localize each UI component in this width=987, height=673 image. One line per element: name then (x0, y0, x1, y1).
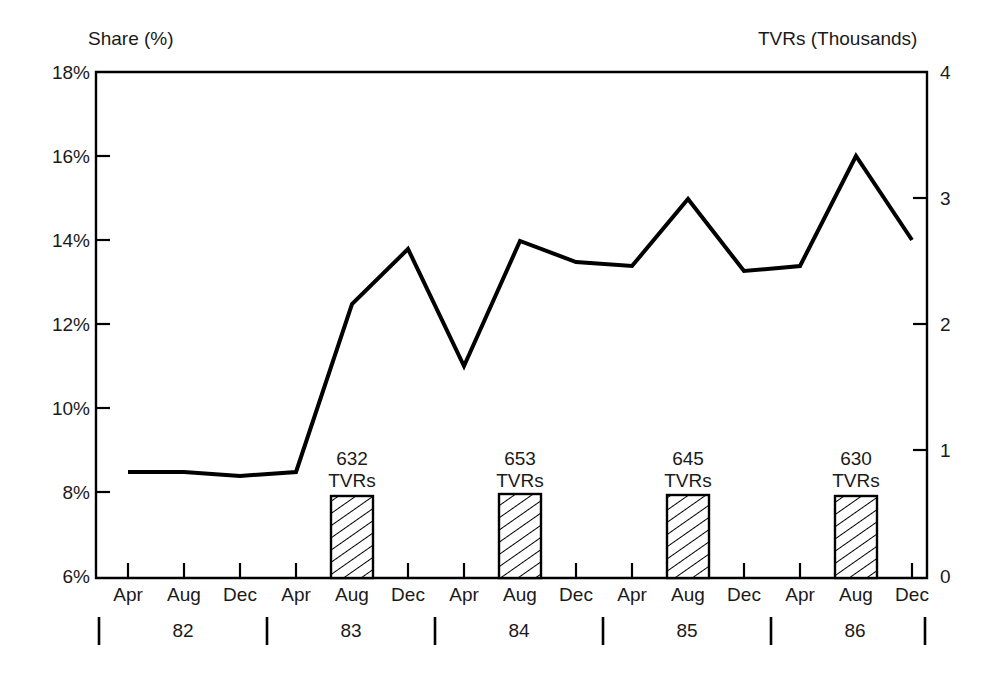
x-year-label-86: 86 (820, 620, 890, 642)
tvr-bar-annotation-1985-value: 645 (633, 448, 743, 470)
x-month-label-1: Aug (154, 584, 214, 606)
tvr-bar-annotation-1984-unit: TVRs (465, 470, 575, 492)
tvr-bar-annotation-1986-value: 630 (801, 448, 911, 470)
tvr-bars (331, 494, 877, 578)
x-month-label-4: Aug (322, 584, 382, 606)
chart-figure: Share (%) TVRs (Thousands) 18% 16% 14% 1… (0, 0, 987, 673)
x-year-label-84: 84 (484, 620, 554, 642)
x-year-label-83: 83 (316, 620, 386, 642)
x-month-label-0: Apr (98, 584, 158, 606)
x-month-label-2: Dec (210, 584, 270, 606)
tvr-bar-1986 (835, 496, 877, 578)
x-month-label-11: Dec (714, 584, 774, 606)
x-month-label-10: Aug (658, 584, 718, 606)
x-month-label-3: Apr (266, 584, 326, 606)
tvr-bar-annotation-1986: 630 TVRs (801, 448, 911, 492)
x-month-label-7: Aug (490, 584, 550, 606)
tvr-bar-annotation-1985: 645 TVRs (633, 448, 743, 492)
tvr-bar-1984 (499, 494, 541, 578)
tvr-bar-annotation-1984-value: 653 (465, 448, 575, 470)
x-month-label-13: Aug (826, 584, 886, 606)
tvr-bar-1983 (331, 496, 373, 578)
tvr-bar-1985 (667, 495, 709, 578)
tvr-bar-annotation-1985-unit: TVRs (633, 470, 743, 492)
x-month-label-8: Dec (546, 584, 606, 606)
x-month-label-5: Dec (378, 584, 438, 606)
tvr-bar-annotation-1983-value: 632 (297, 448, 407, 470)
x-year-label-85: 85 (652, 620, 722, 642)
share-line-series (128, 156, 912, 476)
y-right-ticks (913, 198, 927, 450)
tvr-bar-annotation-1983: 632 TVRs (297, 448, 407, 492)
x-year-label-82: 82 (148, 620, 218, 642)
x-month-label-14: Dec (882, 584, 942, 606)
tvr-bar-annotation-1986-unit: TVRs (801, 470, 911, 492)
tvr-bar-annotation-1984: 653 TVRs (465, 448, 575, 492)
x-month-label-12: Apr (770, 584, 830, 606)
x-month-label-6: Apr (434, 584, 494, 606)
x-month-label-9: Apr (602, 584, 662, 606)
plot-area (0, 0, 987, 673)
tvr-bar-annotation-1983-unit: TVRs (297, 470, 407, 492)
y-left-ticks (96, 156, 110, 492)
